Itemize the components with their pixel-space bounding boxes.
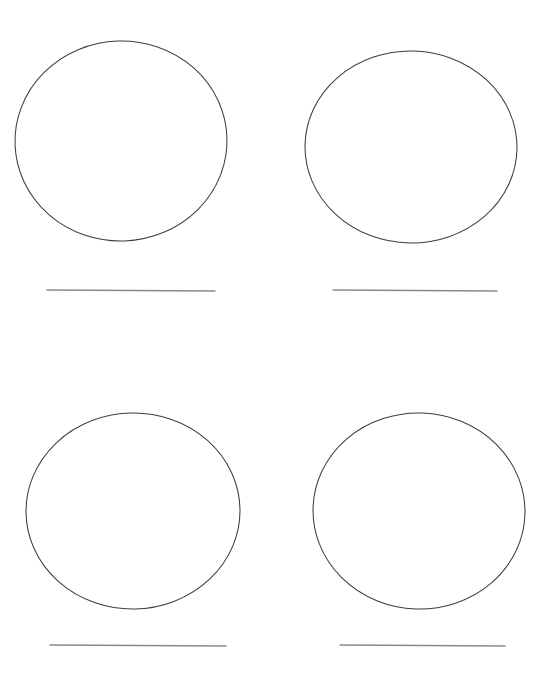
worksheet-item-3[interactable] bbox=[24, 411, 241, 646]
answer-line-2[interactable] bbox=[333, 290, 497, 291]
worksheet-canvas bbox=[0, 0, 555, 680]
worksheet-item-4[interactable] bbox=[310, 409, 529, 646]
worksheet-page: Blank Circles Worksheet bbox=[0, 0, 555, 680]
circle-outline-3[interactable] bbox=[24, 411, 241, 611]
circle-outline-4[interactable] bbox=[310, 409, 529, 612]
answer-line-1[interactable] bbox=[47, 290, 215, 291]
worksheet-item-2[interactable] bbox=[303, 49, 518, 291]
answer-line-4[interactable] bbox=[340, 645, 505, 646]
answer-line-3[interactable] bbox=[50, 645, 226, 646]
circle-outline-1[interactable] bbox=[12, 37, 231, 244]
circle-outline-2[interactable] bbox=[303, 49, 518, 245]
worksheet-item-1[interactable] bbox=[12, 37, 231, 291]
